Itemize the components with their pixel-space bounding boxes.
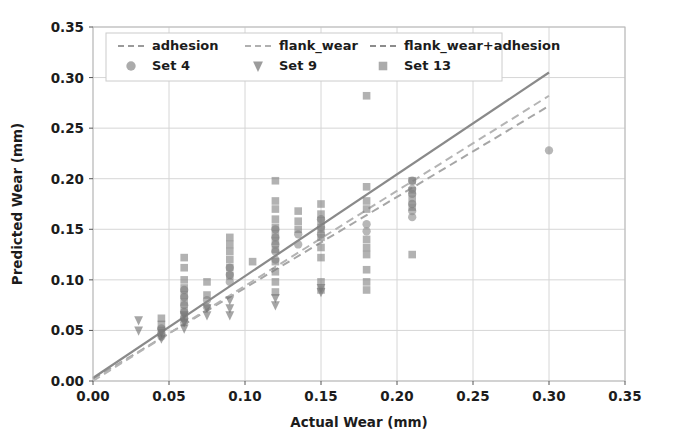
legend-label: Set 13 bbox=[404, 58, 451, 73]
data-point bbox=[363, 183, 371, 191]
data-point bbox=[294, 207, 302, 215]
data-point bbox=[294, 225, 302, 233]
data-point bbox=[272, 246, 280, 254]
data-point bbox=[363, 236, 371, 244]
legend-label: flank_wear+adhesion bbox=[404, 38, 560, 54]
data-point bbox=[203, 291, 211, 299]
y-tick-label: 0.30 bbox=[51, 70, 84, 86]
data-point bbox=[226, 234, 234, 242]
data-point bbox=[317, 217, 325, 225]
data-point bbox=[408, 251, 416, 259]
scatter-plot: 0.000.050.100.150.200.250.300.35 0.000.0… bbox=[0, 0, 675, 446]
data-point bbox=[362, 227, 370, 235]
x-tick-label: 0.10 bbox=[228, 388, 261, 404]
data-point bbox=[294, 217, 302, 225]
data-point bbox=[180, 284, 188, 292]
legend-marker-swatch bbox=[379, 62, 388, 71]
data-point bbox=[272, 205, 280, 213]
data-point bbox=[180, 264, 188, 272]
y-axis-title: Predicted Wear (mm) bbox=[9, 123, 25, 285]
x-tick-label: 0.35 bbox=[608, 388, 641, 404]
data-point bbox=[363, 251, 371, 259]
data-point bbox=[272, 215, 280, 223]
legend-label: Set 9 bbox=[279, 58, 317, 73]
data-point bbox=[408, 187, 416, 195]
data-point bbox=[180, 313, 188, 321]
data-point bbox=[363, 286, 371, 294]
data-point bbox=[363, 92, 371, 100]
data-point bbox=[317, 278, 325, 286]
data-point bbox=[203, 278, 211, 286]
chart-figure: 0.000.050.100.150.200.250.300.35 0.000.0… bbox=[0, 0, 675, 446]
data-point bbox=[363, 266, 371, 274]
data-point bbox=[294, 240, 302, 248]
data-point bbox=[363, 278, 371, 286]
data-point bbox=[180, 276, 188, 284]
x-tick-label: 0.20 bbox=[380, 388, 413, 404]
data-point bbox=[272, 258, 280, 266]
data-point bbox=[317, 244, 325, 252]
x-tick-label: 0.00 bbox=[76, 388, 109, 404]
data-point bbox=[272, 238, 280, 246]
y-tick-label: 0.05 bbox=[51, 322, 84, 338]
data-point bbox=[317, 234, 325, 242]
legend-label: adhesion bbox=[152, 38, 219, 53]
data-point bbox=[226, 272, 234, 280]
data-point bbox=[180, 254, 188, 262]
x-tick-label: 0.30 bbox=[532, 388, 565, 404]
data-point bbox=[408, 177, 416, 185]
y-tick-label: 0.00 bbox=[51, 373, 84, 389]
data-point bbox=[272, 288, 280, 296]
data-point bbox=[272, 177, 280, 185]
data-point bbox=[272, 197, 280, 205]
data-point bbox=[272, 231, 280, 239]
data-point bbox=[317, 200, 325, 208]
chart-legend: adhesionflank_wearflank_wear+adhesionSet… bbox=[106, 33, 560, 81]
data-point bbox=[249, 258, 257, 266]
data-point bbox=[408, 213, 416, 221]
data-point bbox=[363, 244, 371, 252]
data-point bbox=[363, 205, 371, 213]
x-axis-title: Actual Wear (mm) bbox=[290, 414, 427, 430]
data-point bbox=[158, 314, 166, 322]
y-tick-label: 0.20 bbox=[51, 171, 84, 187]
x-tick-label: 0.15 bbox=[304, 388, 337, 404]
data-point bbox=[362, 220, 370, 228]
data-point bbox=[363, 197, 371, 205]
data-point bbox=[545, 146, 553, 154]
data-point bbox=[317, 254, 325, 262]
data-point bbox=[272, 278, 280, 286]
data-point bbox=[180, 306, 188, 314]
data-point bbox=[180, 291, 188, 299]
legend-label: Set 4 bbox=[152, 58, 190, 73]
legend-marker-swatch bbox=[126, 61, 135, 70]
data-point bbox=[317, 225, 325, 233]
data-point bbox=[317, 210, 325, 218]
data-point bbox=[180, 298, 188, 306]
y-tick-label: 0.10 bbox=[51, 272, 84, 288]
data-point bbox=[226, 241, 234, 249]
legend-label: flank_wear bbox=[279, 38, 358, 54]
y-tick-label: 0.15 bbox=[51, 221, 84, 237]
x-tick-label: 0.05 bbox=[152, 388, 185, 404]
data-point bbox=[272, 268, 280, 276]
x-tick-label: 0.25 bbox=[456, 388, 489, 404]
y-tick-label: 0.25 bbox=[51, 120, 84, 136]
data-point bbox=[226, 248, 234, 256]
data-point bbox=[226, 256, 234, 264]
data-point bbox=[226, 264, 234, 272]
data-point bbox=[317, 286, 325, 294]
y-tick-label: 0.35 bbox=[51, 19, 84, 35]
data-point bbox=[408, 203, 416, 211]
data-point bbox=[408, 195, 416, 203]
data-point bbox=[272, 223, 280, 231]
